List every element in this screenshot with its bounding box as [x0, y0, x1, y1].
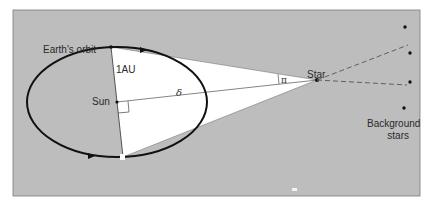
distance-1au-label: 1AU	[116, 64, 135, 75]
background-stars-label-line1: Background	[367, 118, 420, 129]
star-label: Star	[307, 69, 326, 80]
sun-label: Sun	[92, 96, 110, 107]
earth-orbit-label: Earth's orbit	[43, 44, 96, 55]
background-star-2	[408, 51, 411, 54]
background-star-4	[402, 106, 405, 109]
parallax-diagram: Earth's orbit 1AU Sun δ π Star Backgroun…	[0, 0, 432, 203]
background-star-3	[408, 80, 411, 83]
background-star-1	[403, 25, 406, 28]
distance-delta-label: δ	[176, 87, 182, 98]
earth-position-top	[109, 45, 113, 49]
background-stars-label-line2: stars	[387, 130, 409, 141]
scan-artifact	[292, 188, 297, 191]
earth-position-bottom	[120, 154, 125, 160]
parallax-pi-label: π	[281, 75, 287, 85]
sun-point	[115, 100, 118, 103]
